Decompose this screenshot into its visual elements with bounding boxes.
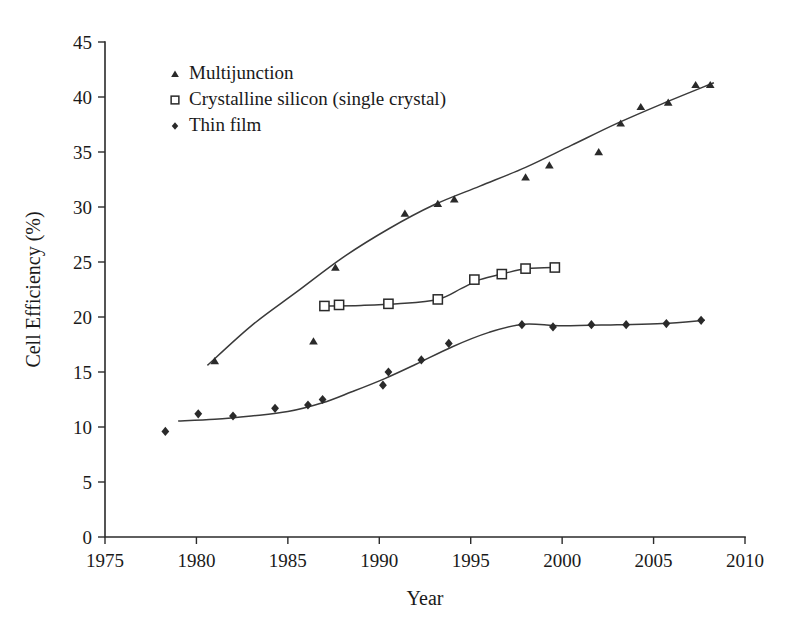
y-tick-label: 20 (73, 307, 92, 328)
data-point (271, 404, 279, 413)
series-crystalline-silicon-single-crystal (320, 263, 560, 311)
solar-cell-efficiency-chart: 0510152025303540451975198019851990199520… (0, 0, 799, 634)
x-axis-title: Year (407, 587, 444, 609)
y-tick-label: 40 (73, 87, 92, 108)
data-point (433, 295, 442, 304)
data-point (320, 301, 329, 310)
y-tick-label: 45 (73, 32, 92, 53)
legend-marker-diamond-icon (172, 122, 178, 130)
data-point (636, 103, 645, 110)
data-point (662, 319, 670, 328)
data-point (706, 81, 715, 88)
series-multijunction (207, 81, 714, 365)
legend-marker-triangle-icon (171, 70, 179, 76)
x-tick-label: 1990 (360, 550, 398, 571)
data-point (384, 299, 393, 308)
data-point (450, 195, 459, 202)
data-point (229, 411, 237, 420)
data-point (518, 320, 526, 329)
y-tick-label: 35 (73, 142, 92, 163)
y-tick-label: 5 (83, 472, 93, 493)
data-point (497, 270, 506, 279)
x-tick-label: 1975 (86, 550, 124, 571)
data-point (587, 320, 595, 329)
data-point (622, 320, 630, 329)
data-point (697, 316, 705, 325)
legend-marker-square-icon (171, 96, 179, 104)
legend-label: Multijunction (189, 62, 294, 83)
y-axis-title: Cell Efficiency (%) (22, 211, 45, 367)
data-point (379, 381, 387, 390)
data-point (309, 337, 318, 344)
trend-line (178, 320, 705, 421)
y-tick-label: 30 (73, 197, 92, 218)
x-tick-label: 1985 (269, 550, 307, 571)
x-tick-label: 2000 (543, 550, 581, 571)
axes: 0510152025303540451975198019851990199520… (73, 32, 764, 572)
legend-label: Crystalline silicon (single crystal) (189, 88, 446, 110)
y-tick-label: 25 (73, 252, 92, 273)
data-point (401, 210, 410, 217)
y-tick-label: 15 (73, 362, 92, 383)
data-point (334, 300, 343, 309)
data-point (550, 263, 559, 272)
legend-label: Thin film (189, 114, 262, 135)
y-tick-label: 0 (83, 527, 93, 548)
data-point (470, 275, 479, 284)
data-point (319, 395, 327, 404)
data-point (521, 264, 530, 273)
chart-legend: MultijunctionCrystalline silicon (single… (171, 62, 446, 135)
data-point (549, 322, 557, 331)
x-tick-label: 2010 (726, 550, 764, 571)
legend-item-crystalline-silicon-single-crystal: Crystalline silicon (single crystal) (171, 88, 446, 110)
legend-item-multijunction: Multijunction (171, 62, 294, 83)
y-tick-label: 10 (73, 417, 92, 438)
x-tick-label: 1995 (452, 550, 490, 571)
data-point (161, 427, 169, 436)
chart-figure: 0510152025303540451975198019851990199520… (0, 0, 799, 634)
x-tick-label: 1980 (177, 550, 215, 571)
data-point (433, 200, 442, 207)
legend-item-thin-film: Thin film (172, 114, 262, 135)
trend-line (207, 83, 714, 366)
data-point (521, 173, 530, 180)
data-point (691, 81, 700, 88)
x-tick-label: 2005 (635, 550, 673, 571)
data-point (545, 161, 554, 168)
data-point (194, 409, 202, 418)
data-point (594, 148, 603, 155)
